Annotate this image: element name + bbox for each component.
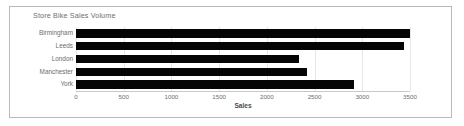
x-tick-label: 500 — [119, 93, 129, 100]
x-tick-label: 1000 — [165, 93, 179, 100]
x-tick-label: 2500 — [308, 93, 322, 100]
x-axis-line — [76, 91, 410, 92]
y-axis-label: Leeds — [56, 42, 73, 51]
bar-row — [76, 29, 410, 38]
x-axis-title: Sales — [76, 102, 410, 109]
bar-row — [76, 68, 410, 77]
x-tick-label: 2000 — [260, 93, 274, 100]
gridline — [410, 27, 411, 91]
y-axis-category-labels: BirminghamLeedsLondonManchesterYork — [10, 27, 73, 91]
y-axis-label: Manchester — [40, 68, 73, 77]
y-axis-label: London — [52, 55, 73, 64]
bar[interactable] — [76, 55, 299, 64]
x-tick-label: 1500 — [212, 93, 226, 100]
x-tick-label: 3000 — [355, 93, 369, 100]
chart-panel: Store Bike Sales Volume BirminghamLeedsL… — [9, 6, 452, 118]
x-tick-label: 3500 — [403, 93, 417, 100]
x-tick-label: 0 — [74, 93, 77, 100]
bar-row — [76, 42, 410, 51]
bar[interactable] — [76, 42, 404, 51]
plot-area — [76, 27, 410, 91]
bar[interactable] — [76, 29, 410, 38]
bar-series — [76, 27, 410, 91]
bar[interactable] — [76, 80, 354, 89]
bar-row — [76, 80, 410, 89]
bar[interactable] — [76, 68, 307, 77]
y-axis-label: Birmingham — [39, 29, 73, 38]
y-axis-label: York — [60, 80, 73, 89]
bar-row — [76, 55, 410, 64]
chart-title: Store Bike Sales Volume — [33, 11, 116, 20]
